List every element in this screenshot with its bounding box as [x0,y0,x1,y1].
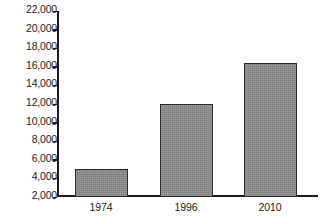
y-axis-tick-label: 4,000 [32,171,57,182]
y-axis-tick-label: 6,000 [32,153,57,164]
x-axis-tick-label-2010: 2010 [259,201,282,213]
y-axis-tick-label: 8,000 [32,134,57,145]
x-axis-tick-label-1996: 1996 [175,201,198,213]
y-axis-tick-label: 16,000 [26,60,57,71]
y-axis-tick-label: 10,000 [26,116,57,127]
bar-1974 [75,169,128,197]
bar-1996 [160,104,213,197]
y-axis-tick-label: 18,000 [26,41,57,52]
y-axis-tick-label: 14,000 [26,78,57,89]
y-axis-tick-label: 2,000 [32,190,57,201]
y-axis-tick-label: 12,000 [26,97,57,108]
plot-area [57,11,318,197]
bar-chart: 22,00020,00018,00016,00014,00012,00010,0… [0,0,334,224]
x-axis-tick-label-1974: 1974 [90,201,113,213]
y-axis-tick-label: 22,000 [26,4,57,15]
y-axis-tick-label: 20,000 [26,23,57,34]
bar-2010 [244,63,297,197]
